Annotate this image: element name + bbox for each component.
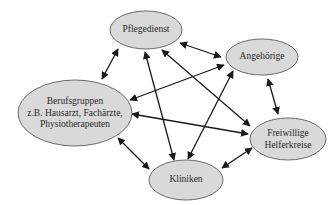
node-label-line: Kliniken xyxy=(169,174,202,186)
edge-pflegedienst-angehoerige xyxy=(180,43,221,57)
edge-pflegedienst-kliniken xyxy=(145,52,174,160)
edge-angehoerige-kliniken xyxy=(188,71,233,159)
node-label-line: Berufsgruppen xyxy=(27,96,122,108)
node-label-line: Physiotherapeuten xyxy=(27,119,122,131)
node-label-line: Freiwillige xyxy=(265,128,312,140)
node-label-angehoerige: Angehörige xyxy=(240,51,285,63)
edge-pflegedienst-berufsgruppen xyxy=(102,49,118,79)
node-label-berufsgruppen: Berufsgruppenz.B. Hausarzt, Fachärzte,Ph… xyxy=(27,96,122,131)
edge-kliniken-freiwillige xyxy=(222,148,252,168)
node-label-line: Angehörige xyxy=(240,51,285,63)
node-label-pflegedienst: Pflegedienst xyxy=(123,24,170,36)
edge-berufsgruppen-kliniken xyxy=(118,138,149,169)
edge-angehoerige-berufsgruppen xyxy=(130,65,224,100)
node-label-freiwillige: FreiwilligeHelferkreise xyxy=(265,128,312,151)
node-label-line: Pflegedienst xyxy=(123,24,170,36)
node-label-line: z.B. Hausarzt, Fachärzte, xyxy=(27,107,122,119)
node-label-line: Helferkreise xyxy=(265,139,312,151)
node-label-kliniken: Kliniken xyxy=(169,174,202,186)
edge-berufsgruppen-freiwillige xyxy=(132,114,248,134)
edge-angehoerige-freiwillige xyxy=(268,79,278,114)
network-diagram: PflegedienstAngehörigeBerufsgruppenz.B. … xyxy=(0,0,336,205)
